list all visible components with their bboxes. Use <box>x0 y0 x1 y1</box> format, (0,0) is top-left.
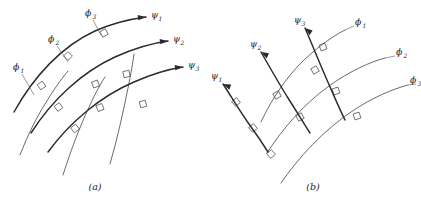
phi-curve-2 <box>267 58 385 153</box>
psi-label-3-subscript: 3 <box>302 20 306 27</box>
phi-label-3-subscript: 3 <box>93 13 97 20</box>
psi-label-2-subscript: 2 <box>257 44 262 51</box>
right-angle-marker <box>54 103 63 112</box>
psi-label-group-a: ψ 1 ψ 2 ψ 3 <box>151 9 200 72</box>
phi-curve-group-a <box>20 54 134 175</box>
right-angle-marker <box>92 80 100 88</box>
phi-label-1-subscript: 1 <box>363 22 367 29</box>
psi-curve-3 <box>305 28 345 120</box>
psi-curve-group-b <box>223 28 345 152</box>
right-angle-marker <box>139 100 147 108</box>
phi-leader-3 <box>93 20 101 35</box>
right-angle-marker <box>96 103 104 111</box>
right-angle-marker <box>123 70 130 77</box>
psi-curve-1 <box>223 84 268 152</box>
phi-label-1: ϕ <box>355 16 362 27</box>
phi-label-3-subscript: 3 <box>418 80 421 87</box>
panel-b-caption: (b) <box>306 181 320 192</box>
right-angle-marker <box>37 81 46 90</box>
psi-label-group-b: ψ 1 ψ 2 ψ 3 <box>211 14 306 83</box>
right-angle-marker <box>64 52 73 61</box>
right-angle-marker-group-a <box>37 29 147 133</box>
right-angle-marker <box>353 112 361 120</box>
right-angle-marker <box>100 29 108 37</box>
phi-leader-group-a <box>22 20 101 95</box>
psi-label-2-subscript: 2 <box>180 39 185 46</box>
phi-curve-3 <box>110 54 134 164</box>
psi-label-3-subscript: 3 <box>196 65 200 72</box>
psi-curve-group-a <box>14 17 183 152</box>
right-angle-marker-group-b <box>232 43 361 158</box>
phi-leader-1 <box>345 26 354 30</box>
right-angle-marker <box>71 124 80 133</box>
psi-curve-3 <box>48 67 183 152</box>
phi-label-2: ϕ <box>396 46 403 57</box>
phi-label-group-a: ϕ 1 ϕ 2 ϕ 3 <box>13 7 97 74</box>
psi-label-1-subscript: 1 <box>219 76 223 83</box>
phi-label-2-subscript: 2 <box>55 39 60 46</box>
panel-a: ϕ 1 ϕ 2 ϕ 3 ψ 1 ψ 2 ψ 3 (a) <box>0 0 205 208</box>
psi-arrowhead-group-b <box>223 28 313 90</box>
phi-label-3: ϕ <box>85 7 92 18</box>
phi-label-1-subscript: 1 <box>21 67 25 74</box>
figure-root: ϕ 1 ϕ 2 ϕ 3 ψ 1 ψ 2 ψ 3 (a) <box>0 0 421 208</box>
phi-label-2-subscript: 2 <box>403 52 408 59</box>
phi-label-3: ϕ <box>410 74 417 85</box>
phi-label-2: ϕ <box>48 33 55 44</box>
panel-a-caption: (a) <box>88 181 101 192</box>
phi-curve-3 <box>281 85 408 183</box>
phi-label-1: ϕ <box>13 61 20 72</box>
phi-leader-2 <box>385 56 395 58</box>
phi-label-group-b: ϕ 1 ϕ 2 ϕ 3 <box>355 16 421 87</box>
panel-b: ϕ 1 ϕ 2 ϕ 3 ψ 1 ψ 2 ψ 3 (b) <box>205 0 421 208</box>
psi-curve-2 <box>261 52 310 133</box>
psi-label-1-subscript: 1 <box>159 15 163 22</box>
right-angle-marker <box>311 66 319 74</box>
phi-curve-group-b <box>261 30 408 183</box>
psi-curve-2 <box>31 41 168 133</box>
